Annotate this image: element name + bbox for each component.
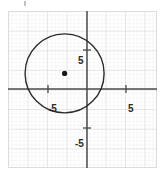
- tick-label-x-positive: 5: [128, 104, 134, 114]
- tick-label-y-positive: 5: [78, 56, 84, 66]
- plot-area: 5 -5 -5 5: [8, 11, 157, 168]
- center-point: [62, 71, 67, 76]
- tick-label-y-negative: -5: [75, 139, 84, 149]
- scan-artifact-mark: [24, 1, 26, 6]
- coordinate-plane-figure: 5 -5 -5 5: [0, 0, 164, 175]
- tick-label-x-negative: -5: [48, 104, 57, 114]
